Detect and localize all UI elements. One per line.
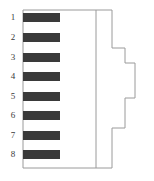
pin-number-label: 4 (6, 72, 20, 81)
pin-bar (23, 13, 60, 22)
pin-bar (23, 150, 60, 159)
pin-bar-group (23, 13, 60, 159)
pin-number-label: 1 (6, 13, 20, 22)
pin-bar (23, 33, 60, 42)
pin-number-label: 6 (6, 111, 20, 120)
pin-number-label: 2 (6, 33, 20, 42)
pin-bar (23, 53, 60, 62)
pin-bar (23, 111, 60, 120)
pin-number-label: 8 (6, 150, 20, 159)
pin-bar (23, 92, 60, 101)
connector-pinout-figure: 1 2 3 4 5 6 7 8 (0, 0, 154, 181)
pin-bar (23, 131, 60, 140)
pin-number-label: 7 (6, 131, 20, 140)
pin-number-label: 5 (6, 92, 20, 101)
pin-bar (23, 72, 60, 81)
pin-number-label: 3 (6, 53, 20, 62)
connector-drawing (0, 0, 154, 181)
